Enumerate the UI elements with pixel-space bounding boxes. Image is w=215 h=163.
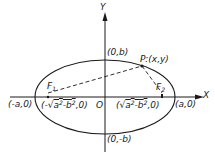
y-axis-arrow-icon: [103, 12, 108, 21]
covertex-top-label: (0,b): [107, 48, 128, 57]
focus-left-name: F1: [47, 82, 56, 92]
segment-f1-p: [48, 66, 142, 93]
x-axis-label: X: [203, 91, 209, 100]
radicand-b: -b: [63, 100, 72, 110]
covertex-bottom-label: (0,-b): [107, 135, 132, 144]
origin-label: O: [96, 101, 103, 110]
focus-left-coord-suffix: ,0): [76, 100, 88, 110]
focus-right-name: F2: [156, 83, 165, 93]
focus-left-dot: [47, 96, 50, 99]
focus-right-subscript: 2: [161, 86, 165, 93]
focus-right-dot: [161, 94, 163, 98]
focus-left-subscript: 1: [52, 85, 56, 92]
focus-left-radicand: a2-b2: [54, 100, 76, 110]
focus-left-coord: (-√a2-b2,0): [41, 100, 88, 110]
vertex-left-label: (-a,0): [8, 100, 32, 109]
vertex-right-label: (a,0): [175, 100, 196, 109]
y-axis-label: Y: [100, 3, 106, 12]
focus-left-coord-prefix: (-: [41, 100, 48, 110]
focus-right-coord-suffix: ,0): [147, 100, 159, 110]
focus-right-coord: (√a2-b2,0): [116, 100, 160, 110]
point-p-dot: [140, 64, 143, 67]
radicand-b: -b: [135, 100, 144, 110]
point-p-label: P:(x,y): [140, 55, 169, 64]
focus-right-radicand: a2-b2: [125, 100, 147, 110]
